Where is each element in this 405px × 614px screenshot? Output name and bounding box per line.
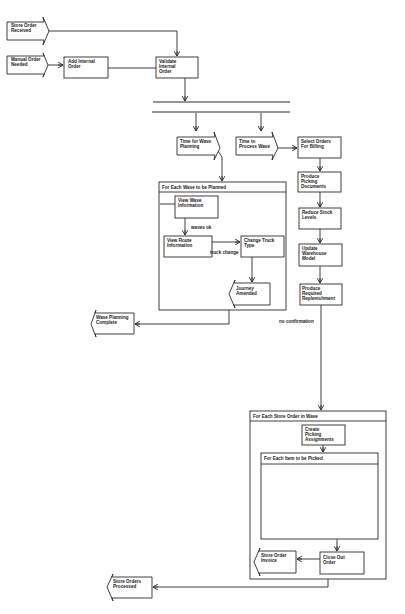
svg-text:For Each Store Order in Wave: For Each Store Order in Wave: [253, 414, 318, 419]
label-line: Received: [11, 28, 31, 33]
label-line: Needed: [11, 62, 28, 67]
action-produce-picking-documents[interactable]: ProducePickingDocuments: [298, 172, 341, 192]
connectors: [48, 31, 337, 587]
action-change-truck-type[interactable]: Change TruckType: [241, 236, 284, 257]
action-select-orders-for-billing[interactable]: Select OrdersFor Billing: [298, 137, 341, 158]
edge-wave-planning-to-loop: [218, 151, 222, 181]
label-line: Information: [178, 203, 203, 208]
label-line: Model: [302, 256, 315, 261]
signal-time-for-wave-planning[interactable]: Time for WavePlanning: [177, 132, 220, 160]
svg-text:View RouteInformation: View RouteInformation: [167, 238, 192, 248]
edge-label-truck-change: truck change: [210, 250, 239, 255]
label-line: Type: [244, 243, 255, 248]
label-line: Complete: [96, 320, 117, 325]
action-update-warehouse-model[interactable]: UpdateWarehouseModel: [299, 244, 342, 266]
activity-diagram: Store OrderReceived Manual OrderNeeded T…: [0, 0, 405, 614]
loop-label: For Each Store Order in Wave: [253, 414, 318, 419]
svg-text:For Each Item to be Picked: For Each Item to be Picked: [264, 456, 323, 461]
action-add-internal-order[interactable]: Add InternalOrder: [64, 57, 108, 78]
label-line: Planning: [180, 144, 200, 149]
label-line: Order: [159, 69, 172, 74]
svg-text:View WaveInformation: View WaveInformation: [178, 198, 203, 208]
signal-store-order-received[interactable]: Store OrderReceived: [7, 17, 49, 45]
edge-wave-loop-to-complete: [135, 310, 229, 324]
label-line: Amended: [236, 291, 257, 296]
label-line: Replenishment: [302, 296, 335, 301]
loop-label: For Each Item to be Picked: [264, 456, 323, 461]
loop-each-item[interactable]: For Each Item to be Picked: [261, 453, 378, 539]
action-close-out-order[interactable]: Close OutOrder: [320, 552, 364, 574]
signal-store-orders-processed[interactable]: Store OrdersProcessed: [107, 574, 152, 601]
edge-store-order-to-validate: [49, 31, 177, 56]
action-validate-internal-order[interactable]: ValidateInternalOrder: [156, 57, 198, 78]
signal-wave-planning-complete[interactable]: Wave PlanningComplete: [91, 310, 134, 337]
edge-label-no-confirmation: no confirmation: [279, 319, 314, 324]
signal-journey-amended[interactable]: JourneyAmended: [229, 280, 270, 308]
action-view-route-information[interactable]: View RouteInformation: [164, 236, 212, 257]
signal-time-to-process-wave[interactable]: Time toProcess Wave: [236, 132, 278, 160]
edge-store-loop-to-processed: [153, 579, 328, 587]
label-line: Invoice: [261, 558, 277, 563]
signal-manual-order-needed[interactable]: Manual OrderNeeded: [7, 53, 48, 77]
action-produce-required-replenishment[interactable]: ProduceRequiredReplenishment: [300, 284, 342, 305]
label-line: Assignments: [305, 437, 334, 442]
label-line: Order: [323, 560, 336, 565]
label-line: Processed: [113, 584, 136, 589]
svg-text:For Each Wave to be Planned: For Each Wave to be Planned: [162, 185, 226, 190]
label-line: Process Wave: [239, 144, 270, 149]
label-line: Documents: [301, 184, 326, 189]
loop-label: For Each Wave to be Planned: [162, 185, 226, 190]
label-line: Information: [167, 243, 192, 248]
label-line: Order: [68, 64, 81, 69]
edge-label-waves-ok: waves ok: [190, 225, 212, 230]
label-line: For Billing: [301, 144, 324, 149]
label-line: Levels: [302, 215, 317, 220]
action-create-picking-assignments[interactable]: CreatePickingAssignments: [302, 425, 345, 445]
signal-store-order-invoice[interactable]: Store OrderInvoice: [254, 548, 296, 576]
action-view-wave-information[interactable]: View WaveInformation: [175, 196, 218, 218]
action-reduce-stock-levels[interactable]: Reduce StockLevels: [299, 208, 341, 229]
